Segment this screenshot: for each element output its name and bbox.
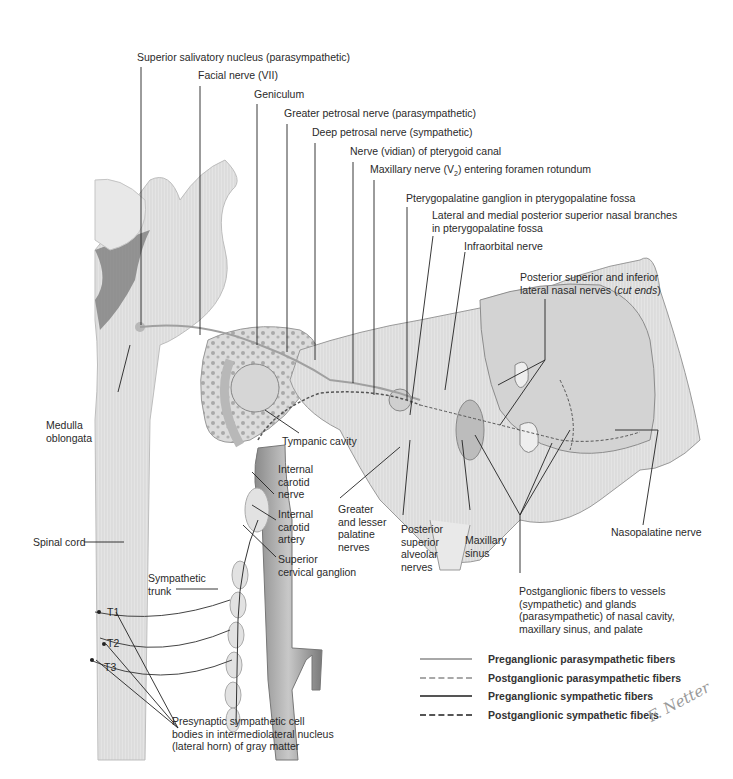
label-maxillary-sinus: Maxillarysinus: [465, 534, 506, 559]
label-posterior-superior-alveolar-nerves: Posteriorsuperioralveolarnerves: [401, 523, 443, 573]
label-postganglionic-fibers: Postganglionic fibers to vessels(sympath…: [519, 585, 675, 635]
label-nasopalatine-nerve: Nasopalatine nerve: [611, 526, 701, 539]
solid-dark-line-icon: [420, 695, 472, 697]
label-internal-carotid-nerve: Internalcarotidnerve: [278, 463, 313, 501]
legend-item-post-parasympathetic: Postganglionic parasympathetic fibers: [420, 669, 720, 688]
label-vidian-nerve: Nerve (vidian) of pterygoid canal: [350, 145, 501, 158]
brainstem-spinal-cord: [95, 160, 237, 760]
label-t1: T1: [107, 606, 119, 619]
label-spinal-cord: Spinal cord: [33, 536, 86, 549]
label-infraorbital-nerve: Infraorbital nerve: [464, 240, 543, 253]
label-facial-nerve: Facial nerve (VII): [198, 69, 278, 82]
label-palatine-nerves: Greaterand lesserpalatinenerves: [338, 503, 386, 553]
label-lateral-nasal-nerves: Posterior superior and inferior lateral …: [520, 271, 661, 296]
lateral-nasal-line-2: lateral nasal nerves (cut ends): [520, 284, 661, 297]
label-maxillary-nerve: Maxillary nerve (V2) entering foramen ro…: [370, 163, 591, 181]
maxillary-text-a: Maxillary nerve (V: [370, 163, 454, 175]
label-nasal-branches: Lateral and medial posterior superior na…: [432, 209, 677, 234]
label-greater-petrosal-nerve: Greater petrosal nerve (parasympathetic): [284, 107, 476, 120]
label-internal-carotid-artery: Internalcarotidartery: [278, 508, 313, 546]
dashed-light-line-icon: [420, 677, 472, 679]
label-pterygopalatine-ganglion: Pterygopalatine ganglion in pterygopalat…: [406, 192, 635, 205]
maxillary-text-b: ) entering foramen rotundum: [458, 163, 591, 175]
lateral-nasal-line-1: Posterior superior and inferior: [520, 271, 661, 284]
label-sympathetic-trunk: Sympathetictrunk: [148, 572, 206, 597]
nasal-branches-line-2: in pterygopalatine fossa: [432, 222, 677, 235]
label-t3: T3: [104, 661, 116, 674]
nasal-branches-line-1: Lateral and medial posterior superior na…: [432, 209, 677, 222]
legend-item-pre-parasympathetic: Preganglionic parasympathetic fibers: [420, 650, 720, 669]
label-t2: T2: [107, 637, 119, 650]
label-geniculum: Geniculum: [254, 88, 304, 101]
label-superior-salivatory-nucleus: Superior salivatory nucleus (parasympath…: [137, 51, 350, 64]
solid-light-line-icon: [420, 658, 472, 660]
label-tympanic-cavity: Tympanic cavity: [282, 435, 357, 448]
label-medulla-oblongata: Medullaoblongata: [46, 419, 92, 444]
label-presynaptic-cell-bodies: Presynaptic sympathetic cellbodies in in…: [172, 715, 334, 753]
label-deep-petrosal-nerve: Deep petrosal nerve (sympathetic): [312, 126, 473, 139]
label-superior-cervical-ganglion: Superiorcervical ganglion: [278, 553, 356, 578]
dashed-dark-line-icon: [420, 714, 472, 716]
